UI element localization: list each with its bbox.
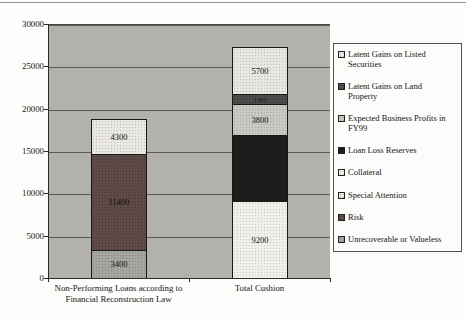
legend-swatch bbox=[338, 147, 345, 154]
legend-item-latent-gains-on-land-property: Latent Gains on LandProperty bbox=[338, 82, 458, 101]
legend-swatch bbox=[338, 83, 345, 90]
x-category-label-line: Total Cushion bbox=[155, 283, 365, 294]
legend-label-line: Special Attention bbox=[348, 191, 407, 201]
legend-swatch bbox=[338, 169, 345, 176]
y-axis-labels: 050001000015000200002500030000 bbox=[0, 24, 44, 278]
chart-legend: Latent Gains on ListedSecuritiesLatent G… bbox=[333, 43, 462, 252]
segment-data-label: 11400 bbox=[109, 198, 130, 207]
x-category-label-line: Financial Reconstruction Law bbox=[14, 294, 224, 305]
y-axis-tick bbox=[44, 24, 48, 25]
bar-segment-unrecoverable-or-valueless: 3400 bbox=[91, 250, 147, 279]
bar-segment-latent-gains-on-listed-securities: 5700 bbox=[232, 47, 288, 95]
plot-area: 43001140034005700130038009200 bbox=[48, 24, 330, 279]
legend-label-line: Collateral bbox=[348, 168, 382, 178]
legend-swatch bbox=[338, 192, 345, 199]
bar-segment-special-attention: 4300 bbox=[91, 119, 147, 155]
legend-swatch bbox=[338, 115, 345, 122]
bar-segment-expected-business-profits-in-fy99: 3800 bbox=[232, 104, 288, 136]
legend-label-line: Unrecoverable or Valueless bbox=[348, 235, 441, 245]
segment-data-label: 4300 bbox=[111, 133, 128, 142]
legend-item-special-attention: Special Attention bbox=[338, 191, 458, 201]
legend-item-unrecoverable-or-valueless: Unrecoverable or Valueless bbox=[338, 235, 458, 245]
legend-label: Expected Business Profits inFY99 bbox=[348, 114, 446, 133]
segment-data-label: 1300 bbox=[254, 96, 267, 104]
segment-data-label: 5700 bbox=[252, 67, 269, 76]
y-tick-label: 25000 bbox=[22, 61, 44, 71]
gridline-30000 bbox=[48, 25, 330, 26]
legend-label-line: Loan Loss Reserves bbox=[348, 146, 416, 156]
y-tick-label: 30000 bbox=[22, 19, 44, 29]
bar-segment-collateral: 9200 bbox=[232, 201, 288, 279]
legend-label-line: Property bbox=[348, 92, 422, 102]
legend-label: Collateral bbox=[348, 168, 382, 178]
legend-item-loan-loss-reserves: Loan Loss Reserves bbox=[338, 146, 458, 156]
legend-item-risk: Risk bbox=[338, 213, 458, 223]
legend-item-latent-gains-on-listed-securities: Latent Gains on ListedSecurities bbox=[338, 50, 458, 69]
legend-swatch bbox=[338, 51, 345, 58]
bar-total-cushion: 5700130038009200 bbox=[232, 47, 288, 279]
stacked-bar-chart-figure: 43001140034005700130038009200 0500010000… bbox=[0, 0, 466, 322]
y-tick-label: 10000 bbox=[22, 188, 44, 198]
figure-top-rule bbox=[0, 2, 466, 3]
bar-non-performing-loans: 4300114003400 bbox=[91, 119, 147, 279]
x-category-label: Total Cushion bbox=[155, 283, 365, 294]
legend-swatch bbox=[338, 236, 345, 243]
y-tick-label: 5000 bbox=[26, 231, 44, 241]
bar-segment-risk: 11400 bbox=[91, 154, 147, 251]
legend-label: Risk bbox=[348, 213, 364, 223]
legend-label-line: FY99 bbox=[348, 124, 446, 134]
legend-label-line: Securities bbox=[348, 60, 426, 70]
y-axis-tick bbox=[44, 109, 48, 110]
y-axis-tick bbox=[44, 236, 48, 237]
y-axis-tick bbox=[44, 193, 48, 194]
legend-label: Loan Loss Reserves bbox=[348, 146, 416, 156]
legend-swatch bbox=[338, 214, 345, 221]
y-axis-line bbox=[48, 24, 49, 279]
legend-item-collateral: Collateral bbox=[338, 168, 458, 178]
y-tick-label: 20000 bbox=[22, 104, 44, 114]
segment-data-label: 9200 bbox=[252, 236, 269, 245]
legend-label: Latent Gains on ListedSecurities bbox=[348, 50, 426, 69]
segment-data-label: 3800 bbox=[252, 116, 269, 125]
legend-label: Unrecoverable or Valueless bbox=[348, 235, 441, 245]
legend-label: Special Attention bbox=[348, 191, 407, 201]
bar-segment-loan-loss-reserves bbox=[232, 135, 288, 202]
y-tick-label: 15000 bbox=[22, 146, 44, 156]
x-axis-tick bbox=[330, 279, 331, 282]
x-axis-tick bbox=[189, 279, 190, 282]
y-axis-tick bbox=[44, 66, 48, 67]
x-axis-line bbox=[45, 278, 331, 279]
segment-data-label: 3400 bbox=[111, 260, 128, 269]
legend-label-line: Risk bbox=[348, 213, 364, 223]
legend-item-expected-business-profits-in-fy99: Expected Business Profits inFY99 bbox=[338, 114, 458, 133]
y-axis-tick bbox=[44, 151, 48, 152]
x-axis-tick bbox=[48, 279, 49, 282]
legend-label: Latent Gains on LandProperty bbox=[348, 82, 422, 101]
